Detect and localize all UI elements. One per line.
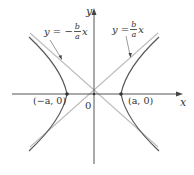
asymptote-positive-den: a: [131, 30, 136, 39]
origin-label: 0: [85, 101, 91, 111]
y-axis-label: y: [86, 6, 92, 17]
vertex-left-label: (−a, 0): [33, 96, 66, 106]
asymptote-positive-num: b: [130, 20, 137, 30]
vertex-right-label: (a, 0): [128, 96, 153, 106]
asymptote-positive-var: x: [138, 25, 144, 35]
vertex-right: [119, 92, 123, 96]
asymptote-positive-lhs: y =: [112, 25, 129, 35]
asymptote-negative-den: a: [75, 32, 80, 41]
asymptote-negative-label: y = − b a x: [44, 22, 88, 41]
origin-dot: [93, 93, 96, 96]
asymptote-negative-var: x: [82, 27, 88, 37]
asymptote-positive-label: y = b a x: [112, 20, 144, 39]
asymptote-negative-lhs: y = −: [44, 27, 73, 37]
hyperbola-diagram: [0, 0, 194, 175]
y-axis-arrow-icon: [92, 8, 97, 15]
asymptote-negative-fraction: b a: [74, 22, 81, 41]
asymptote-negative-num: b: [74, 22, 81, 32]
asymptote-positive-fraction: b a: [130, 20, 137, 39]
x-axis-label: x: [180, 97, 186, 108]
